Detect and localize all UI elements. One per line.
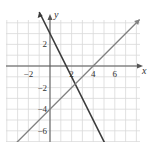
x-tick-label: 4 xyxy=(91,69,96,79)
x-tick-label: 6 xyxy=(113,69,118,79)
y-tick-label: 2 xyxy=(43,39,48,49)
y-tick-label: −6 xyxy=(37,126,47,136)
line-y-equals-x-minus-4 xyxy=(5,20,140,142)
x-tick-label: −2 xyxy=(24,69,34,79)
coordinate-plane: −22462−2−4−6 x y xyxy=(0,0,151,142)
y-tick-label: −2 xyxy=(37,83,47,93)
y-axis-arrow-icon xyxy=(48,14,53,20)
y-tick-label: −4 xyxy=(37,104,47,114)
y-axis-label: y xyxy=(53,9,59,20)
x-axis-label: x xyxy=(141,65,147,76)
x-tick-label: 2 xyxy=(69,69,74,79)
